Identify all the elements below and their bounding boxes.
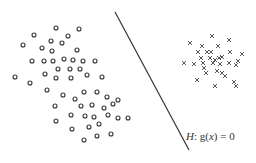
cross-point-icon xyxy=(227,38,231,42)
circle-point-icon xyxy=(81,59,85,63)
circle-point-icon xyxy=(102,106,106,110)
circle-point-icon xyxy=(85,73,89,77)
cross-point-icon xyxy=(188,41,192,45)
circle-point-icon xyxy=(69,113,73,117)
hyperplane-label: H: g(x) = 0 xyxy=(186,131,235,142)
circle-point-icon xyxy=(42,59,46,63)
cross-point-icon xyxy=(213,84,217,88)
circle-point-icon xyxy=(51,59,55,63)
cross-point-icon xyxy=(227,61,231,65)
circle-point-icon xyxy=(68,67,72,71)
cross-point-icon xyxy=(200,44,204,48)
cross-point-icon xyxy=(223,74,227,78)
circle-point-icon xyxy=(90,103,94,107)
circle-point-icon xyxy=(83,114,87,118)
circle-point-icon xyxy=(54,76,58,80)
cross-point-icon xyxy=(234,84,238,88)
circle-point-icon xyxy=(106,113,110,117)
circle-point-icon xyxy=(100,75,104,79)
circle-point-icon xyxy=(109,132,113,136)
cross-point-icon xyxy=(199,56,203,60)
circle-point-icon xyxy=(92,115,96,119)
circle-point-icon xyxy=(45,88,49,92)
cross-point-icon xyxy=(234,63,238,67)
cross-point-icon xyxy=(202,66,206,70)
circle-point-icon xyxy=(87,125,91,129)
circle-point-icon xyxy=(56,67,60,71)
circle-point-icon xyxy=(78,67,82,71)
circle-point-icon xyxy=(95,90,99,94)
cross-point-icon xyxy=(192,62,196,66)
circle-point-icon xyxy=(79,104,83,108)
circle-point-icon xyxy=(54,26,58,30)
cross-point-icon xyxy=(195,78,199,82)
circle-point-icon xyxy=(40,46,44,50)
hyperplane-label-func: g( xyxy=(200,130,209,142)
hyperplane-label-rest: ) = 0 xyxy=(214,130,235,142)
cross-point-icon xyxy=(218,62,222,66)
circle-point-icon xyxy=(13,75,17,79)
circle-point-icon xyxy=(53,104,57,108)
cross-point-icon xyxy=(208,56,212,60)
circle-point-icon xyxy=(54,119,58,123)
circle-point-icon xyxy=(82,138,86,142)
hyperplane-line xyxy=(115,12,189,150)
cross-point-icon xyxy=(240,52,244,56)
circle-point-icon xyxy=(43,72,47,76)
circle-point-icon xyxy=(126,116,130,120)
circle-point-icon xyxy=(32,33,36,37)
circle-point-icon xyxy=(71,58,75,62)
circle-point-icon xyxy=(77,27,81,31)
circle-point-icon xyxy=(75,48,79,52)
circle-point-icon xyxy=(21,43,25,47)
cross-point-icon xyxy=(205,50,209,54)
cross-point-icon xyxy=(210,34,214,38)
cross-point-icon xyxy=(209,50,213,54)
cross-point-icon xyxy=(236,59,240,63)
circle-point-icon xyxy=(105,95,109,99)
circle-point-icon xyxy=(69,76,73,80)
circle-point-icon xyxy=(95,134,99,138)
circle-point-icon xyxy=(28,81,32,85)
circle-point-icon xyxy=(97,122,101,126)
circle-point-icon xyxy=(116,98,120,102)
class-crosses-group xyxy=(182,34,244,88)
circle-point-icon xyxy=(61,93,65,97)
circle-point-icon xyxy=(116,116,120,120)
cross-point-icon xyxy=(201,61,205,65)
cross-point-icon xyxy=(204,71,208,75)
circle-point-icon xyxy=(50,49,54,53)
cross-point-icon xyxy=(228,50,232,54)
circle-point-icon xyxy=(73,97,77,101)
circle-point-icon xyxy=(30,59,34,63)
circle-point-icon xyxy=(82,90,86,94)
circle-point-icon xyxy=(93,59,97,63)
circle-point-icon xyxy=(111,102,115,106)
class-circles-group xyxy=(13,26,130,142)
circle-point-icon xyxy=(62,57,66,61)
circle-point-icon xyxy=(49,39,53,43)
cross-point-icon xyxy=(182,61,186,65)
cross-point-icon xyxy=(196,50,200,54)
hyperplane-label-var: H xyxy=(186,130,194,142)
circle-point-icon xyxy=(60,41,64,45)
cross-point-icon xyxy=(215,69,219,73)
cross-point-icon xyxy=(232,80,236,84)
circle-point-icon xyxy=(70,127,74,131)
circle-point-icon xyxy=(66,34,70,38)
cross-point-icon xyxy=(216,44,220,48)
